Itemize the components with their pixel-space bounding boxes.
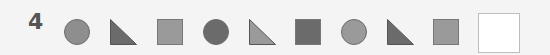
right-triangle-shape bbox=[110, 19, 136, 45]
square-shape bbox=[157, 19, 183, 45]
square-shape bbox=[433, 19, 459, 45]
circle-shape bbox=[203, 19, 229, 45]
question-number: 4 bbox=[28, 10, 43, 34]
right-triangle-shape bbox=[387, 19, 413, 45]
answer-box[interactable] bbox=[478, 13, 520, 53]
circle-shape bbox=[64, 19, 90, 45]
right-triangle-shape bbox=[249, 19, 275, 45]
circle-shape bbox=[341, 19, 367, 45]
square-shape bbox=[295, 19, 321, 45]
